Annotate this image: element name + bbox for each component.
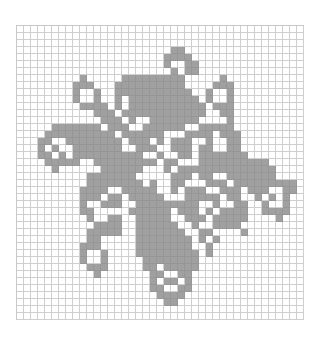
- empty-cell: [136, 26, 143, 33]
- filled-cell: [143, 201, 150, 208]
- filled-cell: [283, 187, 290, 194]
- empty-cell: [192, 54, 199, 61]
- empty-cell: [192, 243, 199, 250]
- empty-cell: [262, 54, 269, 61]
- filled-cell: [241, 208, 248, 215]
- filled-cell: [101, 159, 108, 166]
- empty-cell: [283, 159, 290, 166]
- empty-cell: [52, 26, 59, 33]
- empty-cell: [38, 222, 45, 229]
- empty-cell: [38, 33, 45, 40]
- empty-cell: [59, 75, 66, 82]
- empty-cell: [290, 68, 297, 75]
- empty-cell: [122, 145, 129, 152]
- empty-cell: [136, 124, 143, 131]
- empty-cell: [101, 313, 108, 320]
- empty-cell: [31, 138, 38, 145]
- empty-cell: [17, 138, 24, 145]
- empty-cell: [38, 40, 45, 47]
- empty-cell: [24, 82, 31, 89]
- empty-cell: [262, 33, 269, 40]
- filled-cell: [136, 159, 143, 166]
- filled-cell: [255, 173, 262, 180]
- empty-cell: [94, 299, 101, 306]
- empty-cell: [129, 61, 136, 68]
- empty-cell: [87, 285, 94, 292]
- empty-cell: [115, 187, 122, 194]
- empty-cell: [297, 222, 304, 229]
- empty-cell: [220, 201, 227, 208]
- empty-cell: [276, 187, 283, 194]
- empty-cell: [59, 236, 66, 243]
- pattern-grid: [16, 25, 304, 320]
- empty-cell: [24, 208, 31, 215]
- empty-cell: [17, 208, 24, 215]
- empty-cell: [73, 229, 80, 236]
- filled-cell: [185, 271, 192, 278]
- empty-cell: [52, 271, 59, 278]
- empty-cell: [297, 47, 304, 54]
- empty-cell: [171, 40, 178, 47]
- filled-cell: [108, 194, 115, 201]
- empty-cell: [290, 47, 297, 54]
- empty-cell: [241, 61, 248, 68]
- empty-cell: [80, 306, 87, 313]
- filled-cell: [262, 166, 269, 173]
- empty-cell: [199, 82, 206, 89]
- empty-cell: [101, 285, 108, 292]
- empty-cell: [80, 89, 87, 96]
- empty-cell: [122, 117, 129, 124]
- empty-cell: [108, 26, 115, 33]
- empty-cell: [157, 278, 164, 285]
- empty-cell: [17, 194, 24, 201]
- empty-cell: [45, 40, 52, 47]
- empty-cell: [220, 54, 227, 61]
- empty-cell: [297, 250, 304, 257]
- filled-cell: [129, 89, 136, 96]
- filled-cell: [227, 103, 234, 110]
- filled-cell: [150, 285, 157, 292]
- empty-cell: [45, 180, 52, 187]
- filled-cell: [122, 180, 129, 187]
- empty-cell: [59, 257, 66, 264]
- empty-cell: [31, 166, 38, 173]
- empty-cell: [241, 145, 248, 152]
- empty-cell: [297, 54, 304, 61]
- filled-cell: [241, 180, 248, 187]
- filled-cell: [52, 131, 59, 138]
- empty-cell: [136, 54, 143, 61]
- filled-cell: [227, 152, 234, 159]
- empty-cell: [66, 47, 73, 54]
- empty-cell: [290, 201, 297, 208]
- empty-cell: [108, 40, 115, 47]
- empty-cell: [276, 313, 283, 320]
- empty-cell: [38, 124, 45, 131]
- empty-cell: [59, 201, 66, 208]
- empty-cell: [45, 68, 52, 75]
- empty-cell: [31, 208, 38, 215]
- filled-cell: [143, 103, 150, 110]
- filled-cell: [164, 201, 171, 208]
- empty-cell: [248, 68, 255, 75]
- empty-cell: [66, 278, 73, 285]
- empty-cell: [178, 194, 185, 201]
- filled-cell: [143, 222, 150, 229]
- empty-cell: [276, 236, 283, 243]
- empty-cell: [185, 75, 192, 82]
- filled-cell: [255, 180, 262, 187]
- filled-cell: [185, 243, 192, 250]
- empty-cell: [171, 215, 178, 222]
- empty-cell: [59, 68, 66, 75]
- empty-cell: [248, 110, 255, 117]
- empty-cell: [269, 40, 276, 47]
- filled-cell: [185, 89, 192, 96]
- empty-cell: [171, 271, 178, 278]
- empty-cell: [262, 61, 269, 68]
- filled-cell: [185, 68, 192, 75]
- filled-cell: [255, 159, 262, 166]
- empty-cell: [73, 33, 80, 40]
- filled-cell: [171, 47, 178, 54]
- empty-cell: [220, 257, 227, 264]
- empty-cell: [241, 131, 248, 138]
- empty-cell: [220, 89, 227, 96]
